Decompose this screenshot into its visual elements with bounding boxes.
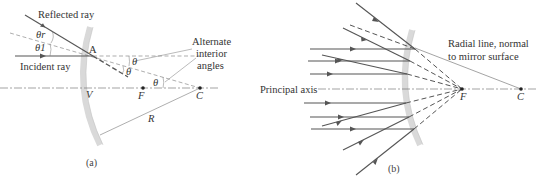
vertex-label: V (86, 89, 94, 100)
caption-b: (b) (388, 163, 400, 175)
center-label-b: C (517, 91, 525, 102)
caption-a: (a) (86, 157, 97, 169)
theta-label-2: θ (126, 66, 131, 77)
point-a-label: A (89, 44, 97, 55)
radial-line-label-1: Radial line, normal (448, 38, 529, 49)
theta-label-3: θ (153, 77, 158, 88)
theta-1-label: θ1 (35, 42, 45, 53)
concave-mirror-figure: Reflected ray Incident ray θr θ1 A V F C… (0, 0, 536, 181)
reflected-ray-label: Reflected ray (38, 9, 95, 20)
center-label-a: C (196, 90, 204, 101)
theta-r-label: θr (36, 29, 46, 40)
alternate-angles-label-1: Alternate (192, 36, 231, 47)
alternate-angles-label-3: angles (197, 60, 224, 71)
theta-label-1: θ (132, 56, 137, 67)
focal-label-a: F (137, 90, 145, 101)
alternate-angles-label-2: interior (196, 48, 227, 59)
principal-axis-label: Principal axis (260, 84, 317, 95)
incident-ray-label: Incident ray (20, 61, 71, 72)
radial-line-label-2: to mirror surface (448, 51, 519, 62)
panel-a: Reflected ray Incident ray θr θ1 A V F C… (0, 9, 231, 169)
radius-label: R (147, 113, 155, 124)
panel-b: Principal axis Radial line, normal to mi… (260, 3, 536, 175)
focal-label-b: F (459, 91, 467, 102)
